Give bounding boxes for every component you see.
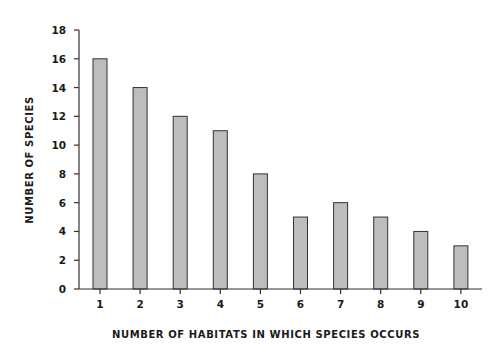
bars: [93, 59, 468, 289]
bar-8: [374, 217, 388, 289]
bar-6: [294, 217, 308, 289]
x-tick-label: 8: [377, 298, 384, 310]
y-tick-label: 16: [51, 53, 66, 65]
bar-9: [414, 231, 428, 289]
y-axis-title: NUMBER OF SPECIES: [24, 96, 35, 224]
x-tick-label: 6: [297, 298, 304, 310]
bar-1: [93, 59, 107, 289]
y-tick-label: 8: [59, 168, 66, 180]
x-tick-label: 9: [417, 298, 424, 310]
bar-2: [133, 88, 147, 289]
y-tick-label: 18: [51, 24, 66, 36]
x-tick-label: 10: [454, 298, 469, 310]
y-tick-label: 10: [51, 139, 66, 151]
y-tick-label: 4: [59, 225, 66, 237]
y-tick-label: 12: [51, 110, 66, 122]
bar-4: [213, 131, 227, 289]
bar-3: [173, 116, 187, 289]
y-tick-label: 0: [59, 283, 66, 295]
x-tick-label: 3: [177, 298, 184, 310]
bar-7: [334, 203, 348, 289]
x-axis-title: NUMBER OF HABITATS IN WHICH SPECIES OCCU…: [112, 329, 420, 340]
y-tick-label: 2: [59, 254, 66, 266]
x-tick-label: 7: [337, 298, 344, 310]
x-tick-label: 4: [217, 298, 224, 310]
bar-10: [454, 246, 468, 289]
x-axis-ticks: 12345678910: [96, 289, 468, 310]
x-tick-label: 5: [257, 298, 264, 310]
bar-chart: 024681012141618 12345678910 NUMBER OF SP…: [0, 0, 500, 346]
y-tick-label: 14: [51, 82, 66, 94]
x-tick-label: 2: [136, 298, 143, 310]
x-tick-label: 1: [96, 298, 103, 310]
bar-5: [253, 174, 267, 289]
y-tick-label: 6: [59, 197, 66, 209]
y-axis-ticks: 024681012141618: [51, 24, 79, 295]
